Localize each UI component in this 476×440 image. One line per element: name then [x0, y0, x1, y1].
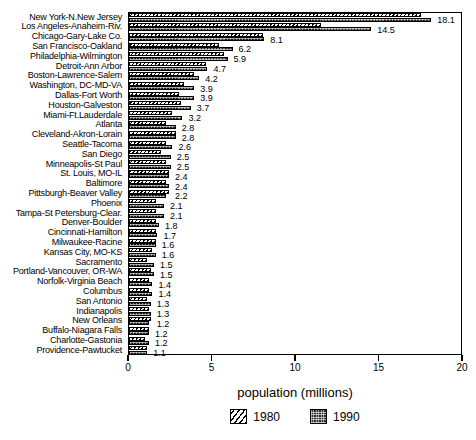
bar-1990 — [129, 106, 191, 110]
plot-area: 18.114.58.16.25.94.74.23.93.93.73.22.82.… — [128, 12, 462, 355]
bar-1990 — [129, 312, 151, 316]
category-label: Minneapolis-St Paul — [46, 160, 122, 169]
bar-1990 — [129, 18, 431, 22]
bar-1980 — [129, 190, 169, 194]
legend-swatch-1980 — [230, 409, 247, 424]
bar-1980 — [129, 160, 166, 164]
bar-group: 1.1 — [129, 346, 463, 355]
bar-1990 — [129, 37, 264, 41]
bar-group: 2.1 — [129, 199, 463, 208]
category-axis-labels: New York-N.New JerseyLos Angeles-Anaheim… — [0, 12, 126, 355]
bar-group: 6.2 — [129, 42, 463, 51]
bar-group: 2.6 — [129, 140, 463, 149]
x-axis-tick-label: 20 — [447, 363, 476, 373]
bar-group: 4.7 — [129, 62, 463, 71]
population-bar-chart: New York-N.New JerseyLos Angeles-Anaheim… — [0, 0, 476, 440]
bar-1990 — [129, 204, 164, 208]
bar-1990 — [129, 214, 164, 218]
bar-1980 — [129, 141, 166, 145]
category-label: Buffalo-Niagara Falls — [42, 326, 122, 335]
bar-1980 — [129, 346, 147, 350]
bar-group: 2.1 — [129, 209, 463, 218]
category-label: Sacramento — [75, 258, 122, 267]
bar-1980 — [129, 278, 149, 282]
category-label: San Francisco-Oakland — [32, 42, 122, 51]
bar-1980 — [129, 327, 149, 331]
bar-1980 — [129, 229, 156, 233]
category-label: Pittsburgh-Beaver Valley — [28, 189, 122, 198]
category-label: Cincinnati-Hamilton — [48, 228, 122, 237]
bar-group: 1.5 — [129, 258, 463, 267]
bar-1990 — [129, 27, 371, 31]
bar-group: 1.2 — [129, 336, 463, 345]
bar-1980 — [129, 239, 156, 243]
bar-1990 — [129, 96, 194, 100]
bar-1990 — [129, 155, 171, 159]
bar-1980 — [129, 111, 172, 115]
bar-1990 — [129, 116, 182, 120]
bar-1990 — [129, 351, 147, 355]
bar-1990 — [129, 263, 154, 267]
bar-1980 — [129, 317, 151, 321]
category-label: Kansas City, MO-KS — [44, 248, 122, 257]
bar-1990 — [129, 194, 166, 198]
category-label: Indianapolis — [76, 307, 122, 316]
legend-entry: 1990 — [310, 409, 360, 424]
category-label: Phoenix — [91, 199, 122, 208]
x-axis-tick — [211, 355, 212, 361]
category-label: Tampa-St Petersburg-Clear. — [16, 209, 122, 218]
category-label: Charlotte-Gastonia — [50, 336, 122, 345]
bar-1990 — [129, 282, 152, 286]
x-axis-tick-label: 15 — [364, 363, 394, 373]
category-label: Norfolk-Virginia Beach — [37, 277, 122, 286]
category-label: Denver-Boulder — [62, 218, 122, 227]
bar-group: 1.8 — [129, 219, 463, 228]
bar-group: 1.4 — [129, 278, 463, 287]
category-label: Baltimore — [86, 179, 122, 188]
legend-label: 1990 — [333, 410, 360, 424]
x-axis-tick-label: 5 — [197, 363, 227, 373]
bar-1980 — [129, 307, 149, 311]
bar-1990 — [129, 272, 154, 276]
bar-1980 — [129, 150, 161, 154]
bar-1980 — [129, 92, 179, 96]
bar-1990 — [129, 253, 156, 257]
bar-group: 3.2 — [129, 111, 463, 120]
bar-1990 — [129, 341, 149, 345]
bar-group: 2.8 — [129, 131, 463, 140]
bar-group: 4.2 — [129, 72, 463, 81]
bar-1990 — [129, 165, 171, 169]
bar-1980 — [129, 52, 224, 56]
category-label: Milwaukee-Racine — [52, 238, 122, 247]
bar-group: 2.5 — [129, 150, 463, 159]
category-label: Chicago-Gary-Lake Co. — [32, 32, 122, 41]
bar-1990 — [129, 174, 169, 178]
bar-group: 18.1 — [129, 13, 463, 22]
bar-1980 — [129, 101, 181, 105]
bar-1980 — [129, 180, 166, 184]
bar-1980 — [129, 13, 421, 17]
legend: 19801990 — [128, 409, 462, 424]
bar-1980 — [129, 248, 152, 252]
category-label: Detroit-Ann Arbor — [56, 62, 122, 71]
bar-group: 2.5 — [129, 160, 463, 169]
bar-group: 2.2 — [129, 189, 463, 198]
x-axis-tick — [461, 355, 462, 361]
bar-group: 3.7 — [129, 101, 463, 110]
category-label: Providence-Pawtucket — [36, 346, 122, 355]
bar-1990 — [129, 67, 207, 71]
category-label: Boston-Lawrence-Salem — [28, 71, 122, 80]
bar-1990 — [129, 135, 176, 139]
bar-1990 — [129, 57, 228, 61]
bar-group: 8.1 — [129, 33, 463, 42]
category-label: Dallas-Fort Worth — [55, 91, 122, 100]
category-label: Philadelphia-Wilmington — [30, 52, 122, 61]
category-label: Columbus — [83, 287, 122, 296]
category-label: Seattle-Tacoma — [62, 140, 122, 149]
legend-entry: 1980 — [230, 409, 280, 424]
bar-group: 2.4 — [129, 180, 463, 189]
bar-1980 — [129, 62, 206, 66]
category-label: San Diego — [82, 150, 122, 159]
bar-1990 — [129, 125, 176, 129]
bar-1980 — [129, 288, 149, 292]
